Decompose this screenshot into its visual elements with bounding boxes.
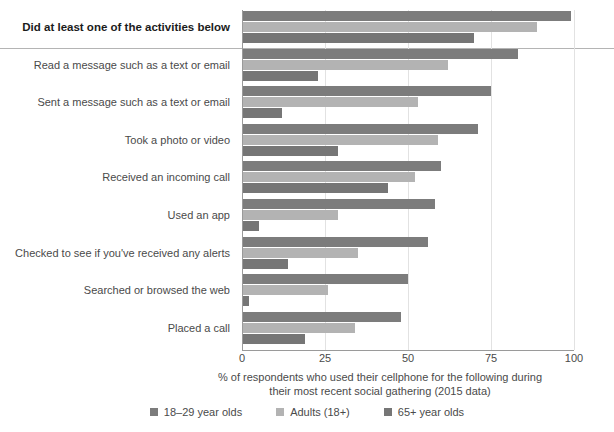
bar: [242, 312, 401, 322]
x-tick-label: 100: [565, 352, 583, 364]
category-label: Searched or browsed the web: [0, 284, 230, 297]
bar: [242, 11, 571, 21]
bar: [242, 259, 288, 269]
legend-item[interactable]: 18–29 year olds: [150, 406, 242, 418]
category-label-column: Did at least one of the activities below…: [0, 10, 236, 350]
bar-rows: [242, 10, 574, 350]
x-axis-title-line-1: % of respondents who used their cellphon…: [150, 370, 610, 384]
bar: [242, 285, 328, 295]
bar: [242, 237, 428, 247]
category-label: Did at least one of the activities below: [0, 21, 230, 34]
bar: [242, 33, 474, 43]
bar-group: [242, 236, 574, 274]
bar: [242, 274, 408, 284]
x-axis-title: % of respondents who used their cellphon…: [150, 370, 610, 398]
legend-item[interactable]: Adults (18+): [276, 406, 350, 418]
category-label: Sent a message such as a text or email: [0, 96, 230, 109]
bar: [242, 22, 537, 32]
bar: [242, 97, 418, 107]
cellphone-usage-bar-chart: Did at least one of the activities below…: [0, 0, 614, 432]
bar: [242, 221, 259, 231]
bar-group: [242, 48, 574, 86]
bar: [242, 146, 338, 156]
x-axis-title-line-2: their most recent social gathering (2015…: [150, 384, 610, 398]
bar-group: [242, 123, 574, 161]
legend-label: Adults (18+): [290, 406, 350, 418]
legend-swatch-icon: [276, 408, 284, 416]
x-axis-line: [242, 350, 574, 351]
x-tick-label: 75: [485, 352, 497, 364]
gridline-100: [574, 10, 575, 350]
bar: [242, 248, 358, 258]
legend-item[interactable]: 65+ year olds: [384, 406, 464, 418]
bar-group: [242, 160, 574, 198]
bar-group: [242, 10, 574, 48]
bar: [242, 86, 491, 96]
bar: [242, 210, 338, 220]
bar: [242, 161, 441, 171]
bar: [242, 124, 478, 134]
bar: [242, 172, 415, 182]
bar: [242, 49, 518, 59]
category-label: Checked to see if you've received any al…: [0, 247, 230, 260]
bar: [242, 323, 355, 333]
legend-swatch-icon: [384, 408, 392, 416]
bar: [242, 135, 438, 145]
category-label: Received an incoming call: [0, 171, 230, 184]
bar: [242, 334, 305, 344]
x-axis-tick-labels: 0255075100: [242, 352, 574, 368]
bar: [242, 60, 448, 70]
bar: [242, 71, 318, 81]
bar-group: [242, 311, 574, 349]
legend-label: 18–29 year olds: [164, 406, 242, 418]
bar: [242, 183, 388, 193]
y-axis-baseline: [242, 10, 243, 350]
category-label: Placed a call: [0, 322, 230, 335]
plot-area: [242, 10, 574, 350]
bar-group: [242, 198, 574, 236]
legend: 18–29 year oldsAdults (18+)65+ year olds: [0, 406, 614, 418]
x-tick-label: 50: [402, 352, 414, 364]
bar: [242, 108, 282, 118]
category-label: Read a message such as a text or email: [0, 59, 230, 72]
x-tick-label: 25: [319, 352, 331, 364]
category-label: Used an app: [0, 209, 230, 222]
bar-group: [242, 85, 574, 123]
bar-group: [242, 273, 574, 311]
category-label: Took a photo or video: [0, 134, 230, 147]
legend-label: 65+ year olds: [398, 406, 464, 418]
bar: [242, 199, 435, 209]
x-tick-label: 0: [239, 352, 245, 364]
legend-swatch-icon: [150, 408, 158, 416]
